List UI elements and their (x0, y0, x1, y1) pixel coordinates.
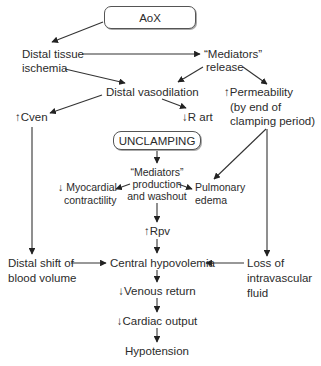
arrow-permeability-pulmonary (214, 129, 266, 179)
node-myocardial-line2: contractility (64, 194, 117, 207)
node-hypotension: Hypotension (125, 344, 189, 358)
node-aox-label: AoX (139, 12, 161, 24)
node-unclamping-label: UNCLAMPING (119, 135, 196, 147)
arrow-mediators-permeability (243, 67, 267, 84)
node-distal-ischemia-line2: ischemia (22, 61, 67, 75)
arrow-mediators-vasodilation (178, 67, 203, 82)
node-permeability-line1: ↑Permeability (224, 85, 293, 99)
node-rpv: ↑Rpv (144, 224, 170, 238)
node-myocardial-line1: ↓ Myocardial (58, 181, 117, 194)
node-central-hypovolemia: Central hypovolemia (110, 256, 215, 270)
node-cardiac-output: ↓Cardiac output (117, 314, 198, 328)
node-aox: AoX (104, 6, 196, 29)
node-permeability-line3: clamping period) (230, 114, 315, 128)
node-distal-ischemia-line1: Distal tissue (22, 47, 84, 61)
node-permeability-line2: (by end of (230, 100, 281, 114)
arrow-vasodilation-cven (50, 95, 102, 113)
node-cven: ↑Cven (15, 110, 48, 124)
node-distal-shift-line1: Distal shift of (8, 256, 74, 270)
arrow-mediators-myocardial (116, 184, 130, 189)
node-pulmonary-line1: Pulmonary (195, 181, 245, 194)
arrow-ischemia-vasodilation (65, 69, 125, 83)
node-pulmonary-line2: edema (195, 194, 227, 207)
node-loss-line3: fluid (247, 286, 268, 300)
node-venous-return: ↓Venous return (118, 284, 195, 298)
node-loss-line1: Loss of (247, 256, 284, 270)
node-unclamping: UNCLAMPING (113, 131, 201, 150)
node-mediators-release-line2: release (206, 60, 244, 74)
node-loss-line2: intravascular (247, 271, 312, 285)
node-distal-vasodilation: Distal vasodilation (106, 85, 199, 99)
node-mediators-production-line1: “Mediators” (130, 166, 183, 179)
arrow-aox-ischemia (52, 22, 103, 42)
node-mediators-production-line3: and washout (127, 190, 187, 203)
arrow-vasodilation-rart (162, 99, 186, 108)
node-r-art: ↓R art (182, 110, 213, 124)
node-mediators-production-line2: production (132, 178, 181, 191)
node-mediators-release-line1: “Mediators” (204, 47, 262, 61)
flowchart: AoX Distal tissue ischemia “Mediators” r… (0, 0, 321, 366)
node-distal-shift-line2: blood volume (8, 271, 76, 285)
